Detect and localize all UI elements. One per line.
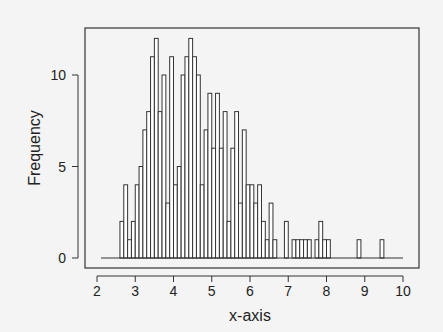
histogram-bar	[357, 240, 361, 258]
histogram-bar	[265, 240, 269, 258]
histogram-bar	[154, 38, 158, 258]
histogram-bar	[273, 240, 277, 258]
histogram-bar	[212, 148, 216, 258]
histogram-bar	[139, 167, 143, 259]
histogram-bar	[216, 93, 220, 258]
histogram-bar	[239, 203, 243, 258]
histogram-bar	[166, 203, 170, 258]
x-tick-label: 7	[284, 283, 292, 299]
histogram-bar	[219, 148, 223, 258]
histogram-bar	[170, 57, 174, 258]
histogram-bar	[380, 240, 384, 258]
x-axis: 2345678910	[93, 276, 411, 299]
histogram-bar	[327, 240, 331, 258]
histogram-bar	[227, 221, 231, 258]
x-tick-label: 8	[323, 283, 331, 299]
x-tick-label: 2	[93, 283, 101, 299]
x-tick-label: 4	[170, 283, 178, 299]
histogram-bar	[231, 148, 235, 258]
x-tick-label: 3	[131, 283, 139, 299]
y-tick-label: 10	[50, 67, 66, 83]
histogram-bar	[120, 221, 124, 258]
histogram-bars	[120, 38, 384, 258]
histogram-bar	[292, 240, 296, 258]
histogram-bar	[223, 112, 227, 258]
histogram-bar	[200, 185, 204, 258]
histogram-bar	[193, 57, 197, 258]
x-tick-label: 5	[208, 283, 216, 299]
y-axis-label: Frequency	[26, 110, 43, 186]
histogram-bar	[250, 185, 254, 258]
histogram-bar	[181, 75, 185, 258]
histogram-bar	[204, 130, 208, 258]
histogram-bar	[124, 185, 128, 258]
histogram-bar	[143, 130, 147, 258]
histogram-bar	[147, 112, 151, 258]
histogram-bar	[196, 75, 200, 258]
histogram-bar	[258, 185, 262, 258]
histogram-bar	[296, 240, 300, 258]
histogram-chart: 0510 2345678910 x-axis Frequency	[0, 0, 443, 332]
histogram-bar	[235, 112, 239, 258]
x-tick-label: 9	[361, 283, 369, 299]
y-tick-label: 0	[58, 250, 66, 266]
histogram-bar	[208, 93, 212, 258]
histogram-bar	[246, 185, 250, 258]
histogram-bar	[128, 240, 132, 258]
histogram-bar	[158, 112, 162, 258]
histogram-bar	[174, 185, 178, 258]
histogram-bar	[189, 38, 193, 258]
x-tick-label: 10	[395, 283, 411, 299]
y-tick-label: 5	[58, 159, 66, 175]
histogram-bar	[135, 185, 139, 258]
histogram-bar	[304, 240, 308, 258]
histogram-bar	[254, 203, 258, 258]
x-axis-label: x-axis	[229, 307, 271, 324]
histogram-bar	[300, 240, 304, 258]
x-tick-label: 6	[246, 283, 254, 299]
histogram-bar	[242, 130, 246, 258]
histogram-bar	[323, 240, 327, 258]
histogram-bar	[315, 240, 319, 258]
histogram-bar	[261, 221, 265, 258]
histogram-bar	[185, 57, 189, 258]
histogram-bar	[319, 221, 323, 258]
histogram-bar	[162, 75, 166, 258]
histogram-bar	[307, 240, 311, 258]
histogram-bar	[177, 167, 181, 259]
histogram-bar	[284, 221, 288, 258]
y-axis: 0510	[50, 67, 78, 266]
histogram-bar	[131, 221, 135, 258]
histogram-bar	[269, 203, 273, 258]
histogram-bar	[151, 57, 155, 258]
